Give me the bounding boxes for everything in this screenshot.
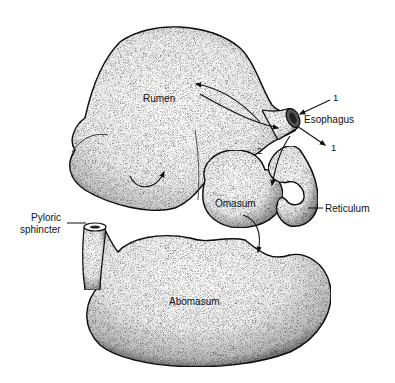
label-pyloric-line1: Pyloric — [31, 212, 61, 223]
label-omasum: Omasum — [215, 198, 256, 209]
label-reticulum: Reticulum — [325, 203, 369, 214]
label-abomasum: Abomasum — [169, 296, 220, 307]
label-esophagus: Esophagus — [304, 114, 354, 125]
label-marker-1-top: 1 — [333, 92, 338, 103]
label-marker-2: 2 — [257, 145, 262, 156]
label-pyloric-line2: sphincter — [20, 224, 61, 235]
esophagus-in-arrow — [300, 100, 330, 114]
label-rumen: Rumen — [143, 93, 175, 104]
label-marker-1-bottom: 1 — [331, 142, 336, 153]
ruminant-stomach-diagram — [0, 0, 395, 383]
esophagus-out-arrow — [297, 126, 325, 145]
